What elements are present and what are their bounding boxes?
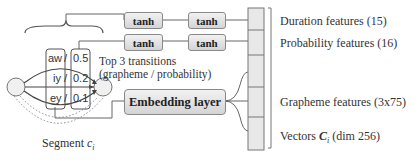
transition-grapheme-2: iy [53,72,61,84]
duration-features-label: Duration features (15) [280,14,387,29]
vectors-label: Vectors Ci (dim 256) [280,129,380,145]
grapheme-features-label: Grapheme features (3x75) [280,95,406,110]
transitions-title-line2: (grapheme / probability) [99,68,211,80]
segment-label: Segment ci [42,136,95,152]
transition-prob-2: 0.2 [73,72,88,84]
segment-text: Segment [42,136,87,150]
vectors-prefix: Vectors [280,129,319,143]
tanh-probability-1: tanh [124,34,163,51]
transition-sep-1: / [64,52,67,64]
transition-prob-1: 0.5 [73,52,88,64]
transition-sep-3: / [64,92,67,104]
transition-prob-3: 0.1 [73,92,88,104]
probability-features-label: Probability features (16) [280,36,397,51]
tanh-probability-2: tanh [188,34,226,51]
vectors-suffix: (dim 256) [329,129,380,143]
transitions-title-line1: Top 3 transitions [99,55,176,67]
segment-sub: i [92,143,94,152]
vectors-var: C [319,129,327,143]
transition-grapheme-3: ey [50,92,62,104]
transition-grapheme-1: aw [48,52,62,64]
tanh-duration-2: tanh [188,12,226,29]
transition-sep-2: / [64,72,67,84]
tanh-duration-1: tanh [124,12,163,29]
embedding-layer-box: Embedding layer [124,89,226,115]
